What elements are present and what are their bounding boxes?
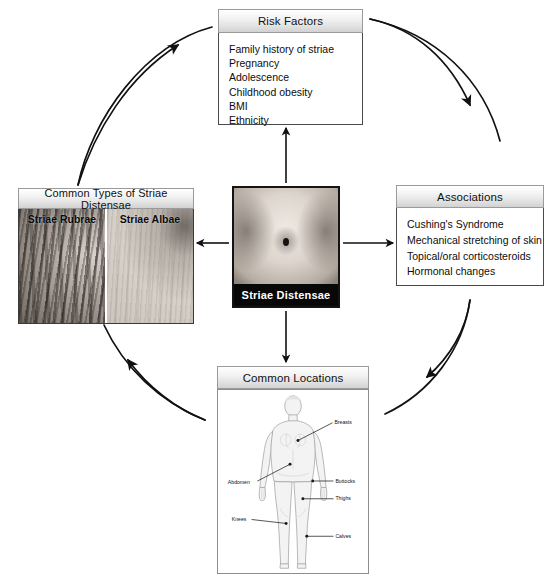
common-types-node: Common Types of Striae Distensae Striae … <box>18 188 194 324</box>
arc-types-to-risk-head <box>78 45 178 185</box>
risk-factors-list: Family history of striae Pregnancy Adole… <box>219 33 362 133</box>
body-label-knees: Knees <box>232 516 247 522</box>
risk-factors-node: Risk Factors Family history of striae Pr… <box>218 9 363 125</box>
striae-rubrae-label: Striae Rubrae <box>19 213 105 225</box>
body-label-buttocks: Buttocks <box>335 478 355 484</box>
list-item: Topical/oral corticosteroids <box>407 249 543 265</box>
list-item: Family history of striae <box>229 42 362 56</box>
body-label-calves: Calves <box>335 533 351 539</box>
common-types-title: Common Types of Striae Distensae <box>18 188 194 209</box>
arc-risk-to-associations <box>370 19 500 141</box>
striae-albae-texture <box>107 209 193 323</box>
risk-factors-body: Family history of striae Pregnancy Adole… <box>218 33 363 125</box>
common-locations-title: Common Locations <box>217 366 369 389</box>
diagram-canvas: Risk Factors Family history of striae Pr… <box>0 0 558 580</box>
list-item: Childhood obesity <box>229 85 362 99</box>
navel-marker <box>283 238 289 246</box>
body-label-thighs: Thighs <box>335 495 351 501</box>
center-node: Striae Distensae <box>232 186 340 308</box>
list-item: Cushing's Syndrome <box>407 217 543 233</box>
list-item: BMI <box>229 99 362 113</box>
body-label-breasts: Breasts <box>334 419 352 425</box>
striae-albae-photo: Striae Albae <box>105 209 193 323</box>
list-item: Mechanical stretching of skin <box>407 233 543 249</box>
associations-title: Associations <box>396 185 544 208</box>
center-caption: Striae Distensae <box>234 284 338 306</box>
list-item: Pregnancy <box>229 56 362 70</box>
common-locations-node: Common Locations <box>217 366 369 574</box>
striae-albae-label: Striae Albae <box>107 213 193 225</box>
arc-risk-to-associations-head <box>370 19 470 105</box>
list-item: Hormonal changes <box>407 264 543 280</box>
striae-rubrae-texture <box>19 209 105 323</box>
abdomen-photo <box>234 188 338 284</box>
body-label-abdomen: Abdomen <box>228 479 250 485</box>
arc-locations-to-types-head <box>128 360 205 420</box>
arc-locations-to-types <box>104 325 205 420</box>
list-item: Adolescence <box>229 70 362 84</box>
associations-list: Cushing's Syndrome Mechanical stretching… <box>397 208 543 286</box>
striae-rubrae-photo: Striae Rubrae <box>19 209 105 323</box>
arc-associations-to-locations-head <box>427 300 470 377</box>
common-locations-body: Breasts Buttocks Thighs Abdomen Knees Ca… <box>217 389 369 574</box>
arc-types-to-risk <box>78 27 212 185</box>
associations-node: Associations Cushing's Syndrome Mechanic… <box>396 185 544 286</box>
risk-factors-title: Risk Factors <box>218 9 363 33</box>
list-item: Ethnicity <box>229 113 362 127</box>
common-types-body: Striae Rubrae Striae Albae <box>18 209 194 324</box>
associations-body: Cushing's Syndrome Mechanical stretching… <box>396 208 544 286</box>
arc-associations-to-locations <box>385 300 470 414</box>
female-body-diagram: Breasts Buttocks Thighs Abdomen Knees Ca… <box>218 390 368 573</box>
